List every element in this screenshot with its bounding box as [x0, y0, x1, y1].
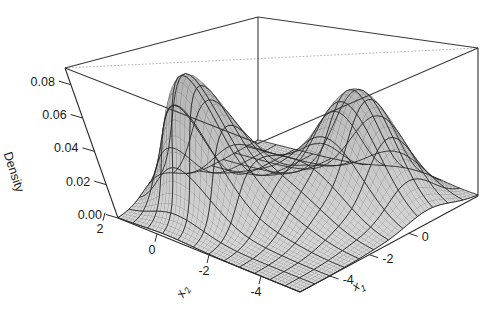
density-surface-mesh — [118, 74, 478, 292]
x2-axis-tick-label: -4 — [250, 285, 261, 299]
z-axis-tick-label: 0.00 — [78, 208, 102, 222]
plot-canvas: 0.080.060.040.020.0020-2-4x2-4-20x1 — [0, 0, 500, 326]
x2-axis-title: x2 — [173, 283, 193, 301]
x1-axis-title: x1 — [349, 276, 368, 297]
z-axis-tick-label: 0.02 — [66, 175, 90, 189]
density-surface-plot: 0.080.060.040.020.0020-2-4x2-4-20x1 Dens… — [0, 0, 500, 326]
z-axis-tick-label: 0.06 — [42, 108, 66, 122]
x2-axis-tick-label: 2 — [97, 222, 104, 236]
x1-axis-tick-label: -2 — [382, 252, 393, 266]
z-axis-tick-label: 0.08 — [31, 75, 55, 89]
x1-axis-tick-label: 0 — [422, 230, 429, 244]
plot-box-back-edges — [65, 48, 478, 68]
z-axis-tick-label: 0.04 — [54, 141, 78, 155]
x2-axis-tick-label: -2 — [198, 264, 209, 278]
x2-axis-tick-label: 0 — [149, 243, 156, 257]
